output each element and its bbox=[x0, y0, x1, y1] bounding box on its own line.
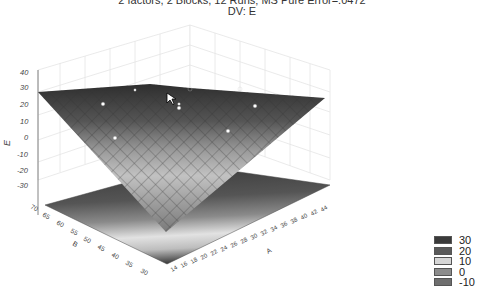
svg-text:14: 14 bbox=[170, 264, 179, 273]
svg-text:65: 65 bbox=[42, 211, 52, 221]
svg-text:44: 44 bbox=[320, 204, 329, 213]
contour-legend: 30 20 10 0 -10 bbox=[434, 235, 475, 288]
svg-text:26: 26 bbox=[230, 240, 239, 249]
svg-text:20: 20 bbox=[200, 252, 209, 261]
svg-text:40: 40 bbox=[20, 68, 29, 77]
svg-text:40: 40 bbox=[111, 251, 121, 261]
svg-text:40: 40 bbox=[300, 212, 309, 221]
legend-swatch bbox=[434, 278, 452, 286]
svg-text:34: 34 bbox=[270, 224, 279, 233]
legend-label: 20 bbox=[459, 246, 471, 256]
svg-text:18: 18 bbox=[190, 256, 199, 265]
svg-text:60: 60 bbox=[56, 219, 66, 229]
svg-text:55: 55 bbox=[70, 227, 80, 237]
svg-text:-20: -20 bbox=[17, 166, 29, 175]
z-axis: 40 30 20 10 0 -10 -20 -30 E bbox=[2, 68, 38, 215]
svg-text:30: 30 bbox=[250, 232, 259, 241]
legend-swatch bbox=[434, 247, 452, 255]
svg-text:B: B bbox=[72, 240, 80, 249]
svg-text:45: 45 bbox=[97, 243, 107, 253]
svg-text:42: 42 bbox=[310, 208, 319, 217]
svg-text:36: 36 bbox=[280, 220, 289, 229]
svg-text:16: 16 bbox=[180, 260, 189, 269]
legend-swatch bbox=[434, 236, 452, 244]
legend-item: 30 bbox=[434, 235, 475, 246]
svg-text:A: A bbox=[265, 246, 273, 255]
legend-label: 10 bbox=[459, 256, 471, 266]
legend-label: -10 bbox=[459, 277, 475, 287]
svg-text:38: 38 bbox=[290, 216, 299, 225]
legend-item: 10 bbox=[434, 256, 475, 267]
svg-text:24: 24 bbox=[220, 244, 229, 253]
svg-text:32: 32 bbox=[260, 228, 269, 237]
svg-text:-30: -30 bbox=[17, 181, 29, 190]
legend-swatch bbox=[434, 257, 452, 265]
svg-text:E: E bbox=[2, 139, 12, 146]
legend-label: 30 bbox=[459, 235, 471, 245]
svg-text:22: 22 bbox=[210, 248, 219, 257]
svg-text:28: 28 bbox=[240, 236, 249, 245]
svg-text:0: 0 bbox=[24, 133, 29, 142]
svg-text:50: 50 bbox=[83, 235, 93, 245]
svg-text:-10: -10 bbox=[17, 150, 29, 159]
legend-label: 0 bbox=[459, 267, 465, 277]
legend-item: -10 bbox=[434, 277, 475, 288]
svg-text:30: 30 bbox=[20, 83, 29, 92]
svg-text:35: 35 bbox=[125, 259, 135, 269]
svg-text:30: 30 bbox=[140, 267, 150, 277]
legend-swatch bbox=[434, 268, 452, 276]
svg-text:10: 10 bbox=[20, 117, 29, 126]
svg-text:20: 20 bbox=[19, 100, 29, 109]
